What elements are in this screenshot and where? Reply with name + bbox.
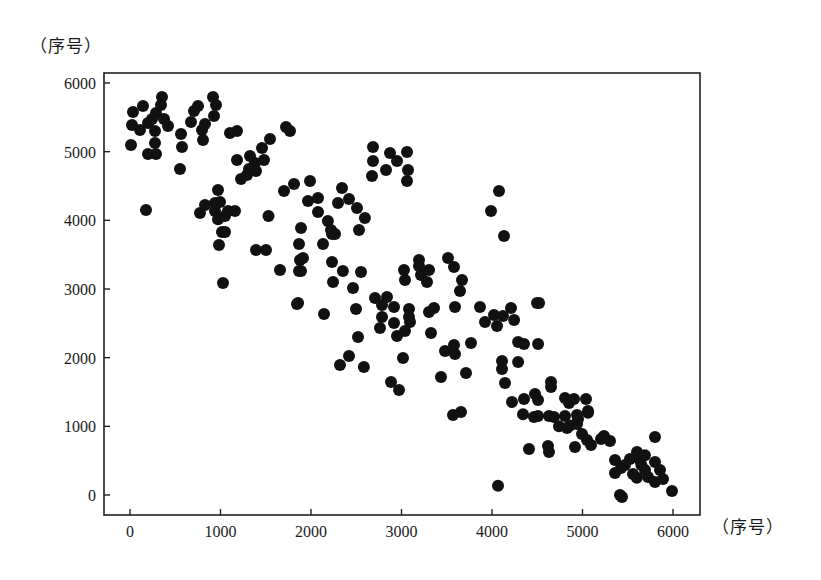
data-point — [318, 308, 330, 320]
data-point — [212, 213, 224, 225]
data-point — [125, 139, 137, 151]
data-point — [219, 226, 231, 238]
data-point — [582, 405, 594, 417]
data-point — [543, 446, 555, 458]
data-point — [304, 175, 316, 187]
data-point — [175, 128, 187, 140]
data-point — [448, 261, 460, 273]
y-tick-label: 4000 — [64, 212, 96, 229]
data-point — [244, 150, 256, 162]
data-point — [572, 413, 584, 425]
data-point — [380, 164, 392, 176]
data-point — [460, 367, 472, 379]
data-point — [479, 316, 491, 328]
data-point — [548, 411, 560, 423]
data-point — [231, 154, 243, 166]
data-point — [517, 408, 529, 420]
data-point — [456, 274, 468, 286]
data-point — [288, 178, 300, 190]
data-point — [512, 356, 524, 368]
data-point — [498, 230, 510, 242]
data-point — [327, 276, 339, 288]
data-point — [518, 393, 530, 405]
data-point — [505, 302, 517, 314]
data-point — [295, 222, 307, 234]
data-point — [491, 320, 503, 332]
x-tick-label: 3000 — [386, 523, 418, 540]
data-point — [465, 337, 477, 349]
data-point — [127, 106, 139, 118]
data-point — [210, 99, 222, 111]
data-point — [149, 137, 161, 149]
data-point — [402, 164, 414, 176]
data-point — [284, 125, 296, 137]
data-point — [493, 185, 505, 197]
data-point — [194, 207, 206, 219]
data-point — [274, 264, 286, 276]
data-point — [435, 371, 447, 383]
data-point — [334, 359, 346, 371]
data-point — [264, 133, 276, 145]
data-point — [137, 100, 149, 112]
data-point — [332, 197, 344, 209]
data-point — [326, 256, 338, 268]
data-point — [367, 155, 379, 167]
data-point — [425, 327, 437, 339]
data-point — [256, 142, 268, 154]
data-point — [197, 134, 209, 146]
data-point — [401, 175, 413, 187]
data-point — [423, 306, 435, 318]
data-point — [657, 473, 669, 485]
data-point — [174, 163, 186, 175]
data-point — [312, 206, 324, 218]
data-point — [454, 285, 466, 297]
data-point — [149, 125, 161, 137]
data-point — [421, 276, 433, 288]
data-point — [212, 184, 224, 196]
data-point — [217, 277, 229, 289]
data-point — [260, 244, 272, 256]
data-point — [366, 170, 378, 182]
x-tick-label: 4000 — [476, 523, 508, 540]
data-point — [367, 141, 379, 153]
data-point — [423, 264, 435, 276]
y-tick-label: 1000 — [64, 418, 96, 435]
data-point — [631, 472, 643, 484]
data-point — [649, 431, 661, 443]
data-point — [258, 154, 270, 166]
data-point — [229, 205, 241, 217]
y-tick-label: 5000 — [64, 144, 96, 161]
data-point — [326, 228, 338, 240]
data-point — [231, 125, 243, 137]
data-point — [496, 363, 508, 375]
data-point — [401, 146, 413, 158]
data-point — [666, 485, 678, 497]
data-point — [447, 409, 459, 421]
x-tick-label: 2000 — [295, 523, 327, 540]
data-point — [474, 301, 486, 313]
data-point — [358, 361, 370, 373]
data-point — [337, 265, 349, 277]
data-point — [292, 297, 304, 309]
x-tick-label: 6000 — [657, 523, 689, 540]
data-point — [499, 377, 511, 389]
data-point — [532, 338, 544, 350]
data-point — [388, 301, 400, 313]
data-point — [639, 449, 651, 461]
x-tick-label: 1000 — [205, 523, 237, 540]
data-point — [388, 317, 400, 329]
data-point — [391, 155, 403, 167]
data-point — [399, 274, 411, 286]
data-point — [397, 352, 409, 364]
scatter-plot: 0100020003000400050006000 01000200030004… — [0, 0, 821, 580]
data-point — [532, 410, 544, 422]
data-point — [531, 297, 543, 309]
y-axis-ticks: 0100020003000400050006000 — [64, 75, 110, 504]
data-point — [449, 301, 461, 313]
data-point — [609, 467, 621, 479]
data-point — [312, 192, 324, 204]
data-point — [350, 303, 362, 315]
data-point — [142, 148, 154, 160]
data-point — [518, 338, 530, 350]
data-point — [569, 441, 581, 453]
